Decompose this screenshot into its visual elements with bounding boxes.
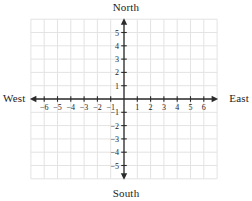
svg-text:2: 2 (149, 103, 153, 112)
svg-text:−3: −3 (80, 103, 89, 112)
svg-text:2: 2 (115, 68, 119, 77)
svg-text:−5: −5 (53, 103, 62, 112)
svg-text:−2: −2 (110, 122, 119, 131)
svg-text:5: 5 (189, 103, 193, 112)
svg-text:3: 3 (162, 103, 166, 112)
svg-text:−6: −6 (40, 103, 49, 112)
svg-text:−1: −1 (110, 108, 119, 117)
svg-text:5: 5 (115, 29, 119, 38)
svg-text:3: 3 (115, 55, 119, 64)
svg-text:1: 1 (135, 103, 139, 112)
svg-text:4: 4 (115, 42, 119, 51)
svg-text:6: 6 (202, 103, 206, 112)
svg-text:−4: −4 (110, 148, 119, 157)
svg-text:−5: −5 (110, 162, 119, 171)
cartesian-grid-svg: −6−5−4−3−2−112345654321−1−2−3−4−5 (0, 0, 252, 201)
svg-text:−4: −4 (67, 103, 76, 112)
svg-text:−3: −3 (110, 135, 119, 144)
svg-text:−2: −2 (93, 103, 102, 112)
svg-text:1: 1 (115, 82, 119, 91)
svg-text:4: 4 (175, 103, 179, 112)
coordinate-plane-figure: North South West East −6−5−4−3−2−1123456… (0, 0, 252, 201)
axis-lines (30, 18, 218, 180)
